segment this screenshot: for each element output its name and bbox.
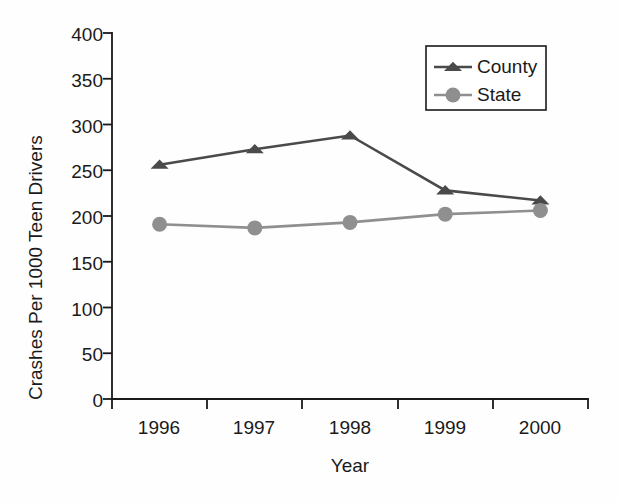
data-point-state-1999 <box>438 207 453 222</box>
x-tick-label: 1997 <box>233 417 275 438</box>
y-tick-label: 150 <box>71 253 103 274</box>
y-tick-label: 50 <box>82 344 103 365</box>
chart-container: Crashes Per 1000 Teen Drivers 400 350 30… <box>0 0 619 502</box>
y-tick-label: 250 <box>71 161 103 182</box>
legend: County State <box>426 46 546 110</box>
y-tick-label: 300 <box>71 116 103 137</box>
legend-label-state: State <box>477 84 521 105</box>
series-county <box>151 130 550 204</box>
legend-label-county: County <box>477 56 538 77</box>
x-tick-marks <box>112 399 588 409</box>
data-point-county-1998 <box>341 130 359 139</box>
y-axis-title: Crashes Per 1000 Teen Drivers <box>25 135 46 400</box>
series-line-county <box>160 135 541 200</box>
x-tick-label: 1996 <box>138 417 180 438</box>
y-tick-label: 400 <box>71 24 103 45</box>
y-tick-labels: 400 350 300 250 200 150 100 50 0 <box>71 24 103 411</box>
series-state <box>152 203 548 235</box>
x-tick-label: 1999 <box>424 417 466 438</box>
y-tick-label: 350 <box>71 70 103 91</box>
data-point-state-1996 <box>152 217 167 232</box>
data-point-state-1998 <box>343 215 358 230</box>
legend-marker-state <box>446 88 461 103</box>
x-tick-label: 1998 <box>329 417 371 438</box>
x-tick-labels: 1996 1997 1998 1999 2000 <box>138 417 561 438</box>
line-chart-svg: Crashes Per 1000 Teen Drivers 400 350 30… <box>0 0 619 502</box>
y-tick-label: 100 <box>71 299 103 320</box>
data-point-state-2000 <box>533 203 548 218</box>
y-tick-marks <box>103 33 112 399</box>
x-tick-label: 2000 <box>519 417 561 438</box>
y-tick-label: 0 <box>92 390 103 411</box>
series-layer <box>151 130 550 235</box>
x-axis-title: Year <box>331 455 370 476</box>
data-point-state-1997 <box>247 220 262 235</box>
y-tick-label: 200 <box>71 207 103 228</box>
